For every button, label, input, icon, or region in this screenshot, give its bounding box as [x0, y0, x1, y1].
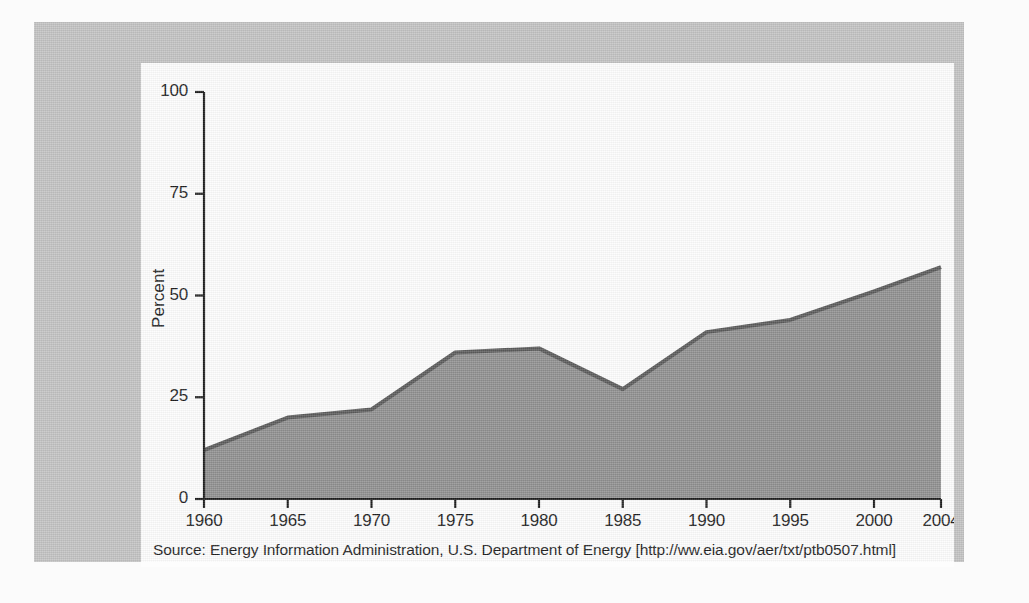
x-tick-label: 1995: [760, 511, 820, 531]
x-tick-label: 1965: [258, 511, 318, 531]
x-tick-label: 1980: [509, 511, 569, 531]
source-note: Source: Energy Information Administratio…: [153, 541, 896, 559]
page-root: Percent 0255075100 196019651970197519801…: [0, 0, 1029, 603]
x-tick-label: 1985: [593, 511, 653, 531]
chart-canvas: [141, 63, 954, 567]
x-tick-label: 1975: [425, 511, 485, 531]
chart-panel: Percent 0255075100 196019651970197519801…: [141, 63, 954, 567]
area-chart: Percent 0255075100 196019651970197519801…: [141, 63, 954, 567]
figure-frame: Percent 0255075100 196019651970197519801…: [34, 22, 964, 562]
x-tick-label: 1970: [342, 511, 402, 531]
x-tick-label: 1990: [677, 511, 737, 531]
x-tick-label: 2004: [911, 511, 954, 531]
y-tick-label: 100: [141, 81, 188, 101]
y-tick-label: 0: [141, 488, 188, 508]
y-tick-label: 25: [141, 386, 188, 406]
x-tick-label: 2000: [844, 511, 904, 531]
y-tick-label: 50: [141, 285, 188, 305]
area-fill: [204, 267, 941, 499]
y-tick-label: 75: [141, 183, 188, 203]
x-tick-label: 1960: [174, 511, 234, 531]
